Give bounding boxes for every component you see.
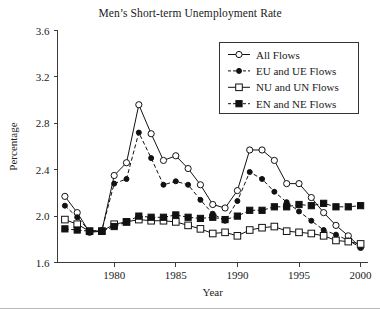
series-3	[62, 216, 364, 247]
y-axis-tick-label: 2.8	[36, 117, 50, 129]
data-point-marker	[136, 130, 141, 135]
legend-item-label: EN and NE Flows	[256, 98, 336, 110]
data-point-marker	[297, 209, 302, 214]
data-point-marker	[309, 218, 314, 223]
data-point-marker	[345, 238, 352, 245]
data-point-marker	[112, 181, 117, 186]
y-axis-tick-label: 3.2	[36, 71, 50, 83]
data-point-marker	[136, 213, 142, 219]
data-point-marker	[136, 102, 142, 108]
data-point-marker	[185, 222, 192, 229]
x-axis-tick-label: 1980	[103, 269, 126, 281]
data-point-marker	[123, 160, 129, 166]
data-point-marker	[173, 212, 179, 218]
data-point-marker	[149, 156, 154, 161]
data-point-marker	[247, 170, 252, 175]
data-point-marker	[62, 193, 68, 199]
data-point-marker	[358, 203, 364, 209]
data-point-marker	[333, 204, 339, 210]
data-point-marker	[357, 241, 364, 248]
data-point-marker	[296, 229, 303, 236]
data-point-marker	[345, 204, 351, 210]
data-point-marker	[173, 153, 179, 159]
y-axis-tick-label: 2.4	[36, 164, 50, 176]
data-point-marker	[185, 214, 191, 220]
y-axis-tick-label: 3.6	[36, 25, 50, 37]
data-point-marker	[272, 189, 277, 194]
data-point-marker	[259, 207, 265, 213]
data-point-marker	[235, 199, 240, 204]
y-axis-tick-label: 2.0	[36, 210, 50, 222]
data-point-marker	[271, 204, 277, 210]
data-point-marker	[74, 227, 80, 233]
data-point-marker	[86, 228, 92, 234]
data-point-marker	[333, 232, 338, 237]
data-point-marker	[160, 157, 166, 163]
data-point-marker	[308, 230, 315, 237]
data-point-marker	[234, 213, 240, 219]
data-point-marker	[161, 182, 166, 187]
chart-legend[interactable]: All FlowsEU and UE FlowsNU and UN FlowsE…	[219, 43, 358, 114]
data-point-marker	[234, 233, 241, 240]
data-point-marker	[222, 205, 228, 211]
data-point-marker	[284, 204, 290, 210]
data-point-marker	[197, 226, 204, 233]
x-axis-tick-label: 1990	[226, 269, 249, 281]
data-point-marker	[124, 176, 129, 181]
data-point-marker	[99, 228, 105, 234]
data-point-marker	[210, 214, 216, 220]
data-point-marker	[198, 197, 203, 202]
legend-item-label: NU and UN Flows	[256, 81, 339, 93]
data-point-marker	[320, 233, 327, 240]
legend-marker	[236, 84, 243, 91]
data-point-marker	[321, 210, 327, 216]
data-point-marker	[259, 224, 266, 231]
data-point-marker	[111, 223, 117, 229]
data-point-marker	[62, 216, 69, 223]
data-point-marker	[75, 215, 80, 220]
data-point-marker	[247, 207, 253, 213]
data-point-marker	[234, 187, 240, 193]
y-axis-tick-label: 1.6	[36, 257, 50, 269]
legend-item-label: All Flows	[256, 49, 300, 61]
data-point-marker	[185, 165, 191, 171]
data-point-marker	[296, 201, 302, 207]
y-axis-title: Percentage	[7, 122, 19, 170]
legend-marker	[237, 68, 242, 73]
data-point-marker	[210, 201, 216, 207]
data-point-marker	[123, 219, 129, 225]
data-point-marker	[247, 147, 253, 153]
legend-item-label: EU and UE Flows	[256, 65, 336, 77]
data-point-marker	[222, 216, 228, 222]
data-point-marker	[62, 203, 67, 208]
data-point-marker	[62, 226, 68, 232]
data-point-marker	[197, 182, 203, 188]
x-axis-tick-label: 1985	[165, 269, 188, 281]
data-point-marker	[333, 222, 339, 228]
data-point-marker	[283, 228, 290, 235]
data-point-marker	[186, 182, 191, 187]
data-point-marker	[259, 147, 265, 153]
chart-canvas: 1.62.02.42.83.23.619801985199019952000Ye…	[0, 0, 380, 311]
data-point-marker	[148, 131, 154, 137]
data-point-marker	[296, 181, 302, 187]
x-axis-tick-label: 2000	[350, 269, 373, 281]
data-point-marker	[308, 203, 314, 209]
data-point-marker	[111, 172, 117, 178]
data-point-marker	[271, 223, 278, 230]
legend-marker	[236, 51, 242, 57]
footer-divider	[0, 308, 380, 309]
data-point-marker	[209, 230, 216, 237]
x-axis-title: Year	[203, 286, 224, 298]
data-point-marker	[172, 219, 179, 226]
series-line	[65, 105, 361, 248]
data-point-marker	[333, 237, 340, 244]
data-point-marker	[222, 229, 229, 236]
data-point-marker	[246, 227, 253, 234]
data-point-marker	[284, 181, 290, 187]
legend-marker	[236, 101, 242, 107]
data-point-marker	[173, 179, 178, 184]
series-group	[62, 102, 364, 251]
figure-container: Men’s Short-term Unemployment Rate 1.62.…	[0, 0, 380, 311]
data-point-marker	[148, 214, 154, 220]
